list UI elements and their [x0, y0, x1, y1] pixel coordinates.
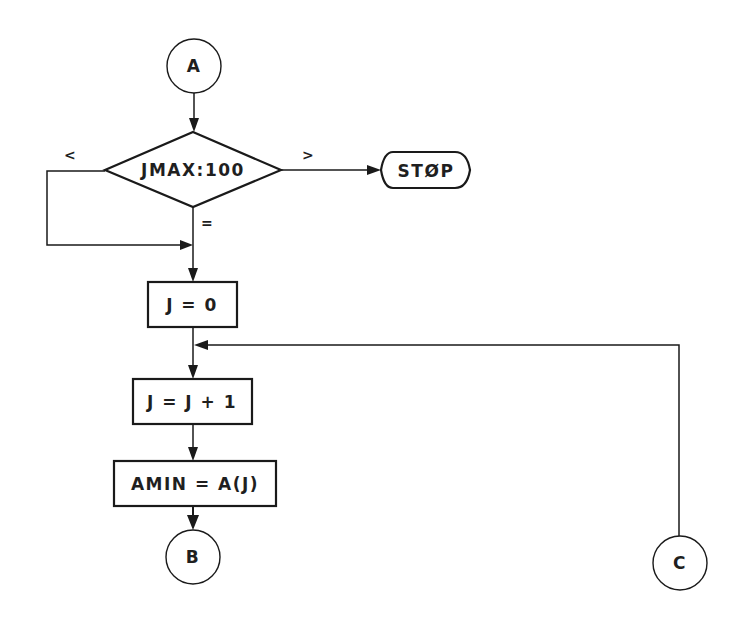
edge-j0-to-increment — [188, 327, 198, 379]
process-j-increment: J = J + 1 — [133, 379, 252, 424]
edge-equal-to-j0: = — [188, 207, 213, 282]
edge-increment-to-amin — [188, 424, 198, 461]
arrow-down-icon — [188, 268, 198, 282]
branch-equal-label: = — [201, 215, 213, 231]
edge-amin-to-b — [187, 506, 199, 530]
connector-b-label: B — [186, 547, 200, 567]
terminal-label: STØP — [398, 161, 455, 181]
flowchart-canvas: A JMAX:100 < > STØP = J = 0 — [0, 0, 749, 622]
connector-b: B — [166, 530, 220, 584]
connector-a: A — [167, 39, 221, 93]
decision-jmax: JMAX:100 — [105, 132, 281, 207]
arrow-down-icon — [188, 447, 198, 461]
process-label: AMIN = A(J) — [131, 474, 259, 494]
process-label: J = J + 1 — [146, 392, 237, 412]
branch-less-label: < — [64, 147, 76, 163]
connector-c-label: C — [673, 553, 687, 573]
arrow-down-icon — [188, 365, 198, 379]
decision-label: JMAX:100 — [140, 160, 245, 180]
edge-greater-than-to-stop: > — [281, 147, 381, 175]
connector-a-label: A — [187, 56, 202, 76]
arrow-right-icon — [180, 240, 193, 250]
edge-a-to-decision — [189, 93, 199, 132]
arrow-right-icon — [367, 165, 381, 175]
process-amin-assign: AMIN = A(J) — [114, 461, 276, 506]
arrow-down-icon — [187, 515, 199, 530]
process-j-init: J = 0 — [148, 282, 237, 327]
arrow-down-icon — [189, 118, 199, 132]
connector-c: C — [653, 536, 707, 590]
terminal-stop: STØP — [381, 152, 470, 188]
branch-greater-label: > — [302, 147, 314, 163]
arrow-left-icon — [194, 340, 208, 350]
process-label: J = 0 — [165, 295, 218, 315]
